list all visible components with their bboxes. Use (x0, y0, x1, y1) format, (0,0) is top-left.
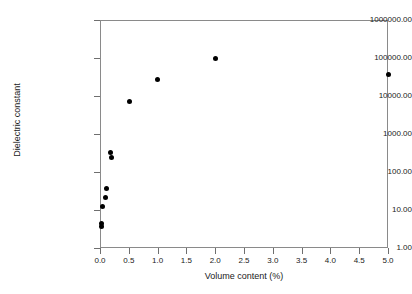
y-axis-tick (94, 210, 100, 211)
y-axis-tick-label: 1000.00 (338, 130, 412, 138)
x-axis-tick (129, 248, 130, 254)
x-axis-tick (100, 248, 101, 254)
x-axis-tick (186, 248, 187, 254)
x-axis-tick (215, 248, 216, 254)
y-axis-tick (94, 134, 100, 135)
y-axis-tick-label: 100000.00 (338, 54, 412, 62)
y-axis-tick (94, 96, 100, 97)
y-axis-tick-label: 10.00 (338, 206, 412, 214)
scatter-chart-figure: 1000000.00 100000.00 10000.00 1000.00 10… (0, 0, 412, 294)
x-axis-tick (273, 248, 274, 254)
x-axis-tick (388, 248, 389, 254)
x-axis-tick (302, 248, 303, 254)
x-axis-tick-label: 5.0 (368, 256, 408, 265)
y-axis-tick-label: 1.00 (338, 244, 412, 252)
y-axis-tick-label: 100.00 (338, 168, 412, 176)
y-axis-tick-label: 1000000.00 (338, 16, 412, 24)
y-axis-title: Dielectric constant (12, 60, 22, 180)
x-axis-title: Volume content (%) (100, 271, 388, 281)
x-axis-tick (330, 248, 331, 254)
x-axis-tick (158, 248, 159, 254)
y-axis-tick (94, 58, 100, 59)
y-axis-tick (94, 20, 100, 21)
y-axis-tick (94, 172, 100, 173)
x-axis-tick (359, 248, 360, 254)
y-axis-tick-label: 10000.00 (338, 92, 412, 100)
x-axis-tick (244, 248, 245, 254)
